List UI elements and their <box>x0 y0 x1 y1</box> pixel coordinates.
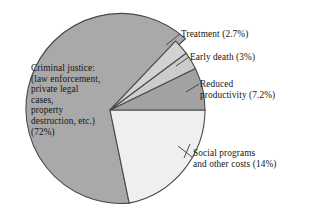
pie-label-treatment: Treatment (2.7%) <box>181 29 316 40</box>
pie-label-reduced-productivity: Reduced productivity (7.2%) <box>200 79 318 100</box>
pie-label-social-programs: Social programs and other costs (14%) <box>193 148 319 169</box>
pie-label-early-death: Early death (3%) <box>190 52 315 63</box>
pie-label-criminal-justice: Criminal justice: (law enforcement, priv… <box>31 63 127 137</box>
pie-chart-figure: Criminal justice: (law enforcement, priv… <box>0 0 320 218</box>
